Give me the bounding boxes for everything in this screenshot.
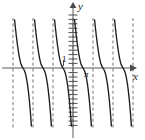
y-axis-arrow	[70, 2, 77, 8]
y-unit-label: 1	[62, 55, 67, 64]
y-axis-label: y	[78, 1, 83, 12]
plot-canvas	[0, 0, 145, 140]
cotangent-branch	[15, 20, 32, 126]
cotangent-branch	[95, 20, 112, 126]
cotangent-branch	[35, 20, 52, 126]
x-axis-label: x	[133, 71, 138, 82]
cotangent-graph-figure: y x 1 π	[0, 0, 145, 140]
pi-tick-label: π	[84, 70, 89, 79]
cotangent-branch	[115, 20, 132, 126]
